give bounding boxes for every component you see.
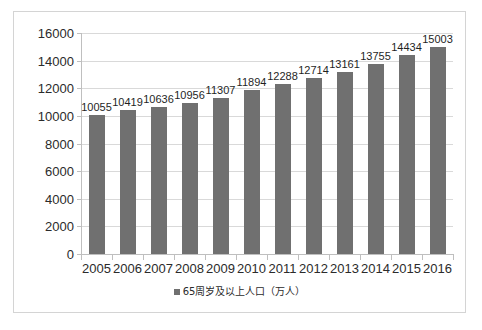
bar[interactable] — [213, 98, 229, 254]
y-axis-tick-label: 6000 — [16, 165, 74, 178]
x-axis-tick — [329, 255, 330, 260]
gridline — [81, 226, 453, 227]
x-axis-tick — [81, 255, 82, 260]
gridline — [81, 33, 453, 34]
y-axis-tick — [77, 226, 82, 227]
y-axis-tick — [77, 88, 82, 89]
square-marker-icon — [174, 289, 180, 295]
legend-label: 65周岁及以上人口（万人） — [183, 287, 306, 297]
plot-area — [81, 33, 453, 254]
gridline — [81, 116, 453, 117]
y-axis-tick-label: 12000 — [16, 82, 74, 95]
x-axis-tick — [143, 255, 144, 260]
y-axis-tick — [77, 144, 82, 145]
gridline — [81, 171, 453, 172]
y-axis-tick — [77, 61, 82, 62]
x-axis-tick — [453, 255, 454, 260]
bar[interactable] — [151, 107, 167, 254]
bar-value-label: 13755 — [355, 51, 397, 62]
bar[interactable] — [89, 115, 105, 254]
chart-legend: 65周岁及以上人口（万人） — [14, 287, 465, 297]
y-axis-labels: 0200040006000800010000120001400016000 — [14, 33, 74, 254]
bar[interactable] — [275, 84, 291, 254]
x-axis-tick — [422, 255, 423, 260]
y-axis-tick-label: 16000 — [16, 27, 74, 40]
chart-frame: 0200040006000800010000120001400016000 65… — [13, 11, 466, 313]
y-axis-tick-label: 10000 — [16, 109, 74, 122]
x-axis-tick-label: 2016 — [418, 262, 458, 275]
bar[interactable] — [120, 110, 136, 254]
x-axis-tick — [267, 255, 268, 260]
y-axis-tick-label: 14000 — [16, 54, 74, 67]
bar[interactable] — [337, 72, 353, 254]
y-axis-tick-label: 2000 — [16, 220, 74, 233]
x-axis-tick — [236, 255, 237, 260]
y-axis-tick — [77, 171, 82, 172]
bar[interactable] — [244, 90, 260, 254]
x-axis-tick — [360, 255, 361, 260]
bar[interactable] — [182, 103, 198, 254]
y-axis-tick-label: 0 — [16, 248, 74, 261]
x-axis-tick — [112, 255, 113, 260]
x-axis-tick — [174, 255, 175, 260]
y-axis-tick-label: 4000 — [16, 192, 74, 205]
bar[interactable] — [306, 78, 322, 254]
bar[interactable] — [399, 55, 415, 254]
gridline — [81, 144, 453, 145]
y-axis-tick — [77, 116, 82, 117]
x-axis-tick — [205, 255, 206, 260]
y-axis-tick — [77, 33, 82, 34]
y-axis-tick — [77, 199, 82, 200]
bar[interactable] — [430, 47, 446, 254]
bar-value-label: 15003 — [417, 34, 459, 45]
gridline — [81, 88, 453, 89]
x-axis-tick — [391, 255, 392, 260]
gridline — [81, 61, 453, 62]
x-axis-tick — [298, 255, 299, 260]
y-axis-tick-label: 8000 — [16, 137, 74, 150]
gridline — [81, 199, 453, 200]
bar[interactable] — [368, 64, 384, 254]
